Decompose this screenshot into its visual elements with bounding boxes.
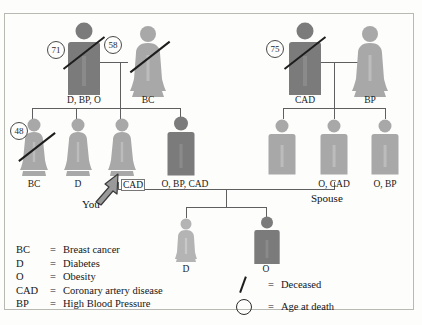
legend-row-cad: CAD = Coronary artery disease xyxy=(16,284,163,298)
conditions-grandmother-maternal: BC xyxy=(142,96,155,106)
descent-line-right xyxy=(334,62,335,108)
conditions-sibling-2: D xyxy=(75,180,82,190)
figure-in-law-1 xyxy=(266,119,298,177)
legend-value: High Blood Pressure xyxy=(63,297,151,311)
sib-drop-5 xyxy=(283,108,284,119)
conditions-grandmother-paternal: BP xyxy=(364,96,376,106)
legend-key: BP xyxy=(16,297,50,311)
legend-equals: = xyxy=(50,257,63,271)
figure-grandmother-paternal xyxy=(349,25,391,97)
figure-in-law-3 xyxy=(369,119,401,177)
child-drop-1 xyxy=(186,207,187,218)
legend-value: Breast cancer xyxy=(63,243,120,257)
sib-drop-7 xyxy=(385,108,386,119)
figure-proband-you xyxy=(106,118,138,176)
conditions-grandfather-maternal: D, BP, O xyxy=(67,96,101,106)
conditions-sibling-1: BC xyxy=(28,180,41,190)
legend-equals: = xyxy=(50,297,63,311)
legend-row-d: D = Diabetes xyxy=(16,257,163,271)
descent-line-left xyxy=(120,62,121,108)
figure-child-son xyxy=(252,216,282,264)
legend-row-bp: BP = High Blood Pressure xyxy=(16,297,163,311)
age-value: 48 xyxy=(15,127,24,136)
figure-grandfather-paternal xyxy=(283,22,327,98)
age-circle-icon xyxy=(228,297,268,315)
legend-key: CAD xyxy=(16,284,50,298)
legend-key: O xyxy=(16,270,50,284)
legend-abbreviations: BC = Breast cancer D = Diabetes O = Obes… xyxy=(16,243,163,311)
figure-grandfather-maternal xyxy=(62,22,106,98)
legend-row-deceased: = Deceased xyxy=(228,273,334,295)
legend-value: Coronary artery disease xyxy=(63,284,163,298)
conditions-sibling-4: O, BP, CAD xyxy=(162,180,209,190)
pedigree-diagram-screenshot: 71 D, BP, O 58 BC 75 CAD B xyxy=(0,0,422,325)
legend-row-age-at-death: = Age at death xyxy=(228,295,334,317)
conditions-spouse: O, CAD xyxy=(318,180,350,190)
figure-sibling-2 xyxy=(62,118,94,176)
legend-equals: = xyxy=(50,284,63,298)
legend-value: Obesity xyxy=(63,270,96,284)
figure-child-daughter xyxy=(172,218,200,262)
figure-spouse xyxy=(318,119,350,177)
legend-equals: = xyxy=(50,270,63,284)
conditions-in-law-3: O, BP xyxy=(373,180,396,190)
age-at-death-71[interactable]: 71 xyxy=(47,41,65,59)
spouse-label: Spouse xyxy=(311,192,343,204)
age-at-death-58[interactable]: 58 xyxy=(104,36,122,54)
legend-value: Deceased xyxy=(281,279,321,290)
legend-value: Age at death xyxy=(281,301,334,312)
legend-symbols: = Deceased = Age at death xyxy=(228,273,334,317)
conditions-child-daughter: D xyxy=(183,265,190,275)
conditions-grandfather-paternal: CAD xyxy=(295,96,315,106)
legend-key: BC xyxy=(16,243,50,257)
legend-row-o: O = Obesity xyxy=(16,270,163,284)
age-value: 71 xyxy=(52,46,61,55)
sibship-line-gen3 xyxy=(186,207,266,208)
figure-grandmother-maternal xyxy=(127,25,169,97)
deceased-slash-icon xyxy=(228,275,268,293)
age-value: 75 xyxy=(271,45,280,54)
legend-key: D xyxy=(16,257,50,271)
conditions-proband-you: CAD xyxy=(121,179,145,191)
legend-value: Diabetes xyxy=(63,257,100,271)
sibship-line-left xyxy=(32,108,180,109)
legend-equals: = xyxy=(268,301,281,312)
age-at-death-48[interactable]: 48 xyxy=(10,122,28,140)
descent-line-gen3 xyxy=(226,189,227,207)
age-value: 58 xyxy=(109,41,118,50)
sib-drop-6 xyxy=(334,108,335,119)
legend-row-bc: BC = Breast cancer xyxy=(16,243,163,257)
figure-sibling-4 xyxy=(164,116,198,178)
legend-equals: = xyxy=(268,279,281,290)
proband-label-you: You xyxy=(82,198,100,210)
age-at-death-75[interactable]: 75 xyxy=(266,40,284,58)
legend-equals: = xyxy=(50,243,63,257)
